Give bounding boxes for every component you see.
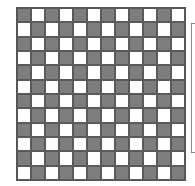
board-square <box>73 8 87 22</box>
board-square <box>171 80 185 94</box>
board-square <box>59 94 73 108</box>
board-square <box>59 123 73 137</box>
board-square <box>157 137 171 151</box>
side-panel-edge <box>191 23 195 153</box>
board-square <box>157 108 171 122</box>
board-square <box>129 65 143 79</box>
board-square <box>87 151 101 165</box>
board-square <box>129 51 143 65</box>
board-square <box>143 94 157 108</box>
board-square <box>87 65 101 79</box>
board-square <box>143 137 157 151</box>
board-square <box>129 8 143 22</box>
board-square <box>17 151 31 165</box>
board-square <box>171 51 185 65</box>
board-square <box>171 123 185 137</box>
board-square <box>73 137 87 151</box>
board-square <box>45 80 59 94</box>
board-square <box>87 80 101 94</box>
board-square <box>101 22 115 36</box>
board-square <box>31 108 45 122</box>
board-square <box>87 94 101 108</box>
board-square <box>87 123 101 137</box>
board-square <box>45 166 59 180</box>
board-square <box>129 37 143 51</box>
board-square <box>73 151 87 165</box>
board-square <box>45 22 59 36</box>
board-square <box>171 22 185 36</box>
board-square <box>73 65 87 79</box>
board-square <box>17 123 31 137</box>
board-square <box>101 123 115 137</box>
board-square <box>157 22 171 36</box>
board-square <box>129 166 143 180</box>
board-square <box>45 108 59 122</box>
board-square <box>157 65 171 79</box>
board-square <box>17 166 31 180</box>
board-square <box>17 65 31 79</box>
board-square <box>115 166 129 180</box>
board-square <box>31 94 45 108</box>
board-square <box>171 65 185 79</box>
board-square <box>87 51 101 65</box>
board-square <box>157 123 171 137</box>
board-square <box>31 37 45 51</box>
board-square <box>115 108 129 122</box>
board-square <box>115 65 129 79</box>
board-square <box>143 8 157 22</box>
board-square <box>115 80 129 94</box>
board-square <box>31 137 45 151</box>
board-square <box>143 151 157 165</box>
board-square <box>87 108 101 122</box>
board-square <box>129 123 143 137</box>
board-square <box>171 166 185 180</box>
board-square <box>17 80 31 94</box>
board-square <box>59 166 73 180</box>
board-square <box>45 51 59 65</box>
board-square <box>129 137 143 151</box>
board-square <box>59 80 73 94</box>
board-square <box>129 151 143 165</box>
board-square <box>115 51 129 65</box>
board-square <box>45 65 59 79</box>
board-square <box>87 37 101 51</box>
board-square <box>17 94 31 108</box>
board-square <box>59 108 73 122</box>
board-square <box>115 22 129 36</box>
board-square <box>59 65 73 79</box>
board-square <box>87 22 101 36</box>
board-square <box>129 108 143 122</box>
board-square <box>45 123 59 137</box>
board-square <box>73 94 87 108</box>
board-square <box>129 22 143 36</box>
board-square <box>17 108 31 122</box>
board-square <box>157 166 171 180</box>
board-square <box>171 37 185 51</box>
board-square <box>143 37 157 51</box>
board-square <box>157 37 171 51</box>
board-square <box>59 37 73 51</box>
board-square <box>17 51 31 65</box>
board-square <box>143 166 157 180</box>
board-square <box>157 151 171 165</box>
board-square <box>101 51 115 65</box>
board-square <box>31 123 45 137</box>
board-square <box>59 151 73 165</box>
board-square <box>17 8 31 22</box>
board-square <box>101 37 115 51</box>
board-square <box>31 22 45 36</box>
board-square <box>59 51 73 65</box>
board-square <box>157 80 171 94</box>
board-square <box>59 22 73 36</box>
board-square <box>73 166 87 180</box>
board-square <box>101 8 115 22</box>
board-square <box>115 8 129 22</box>
board-square <box>31 151 45 165</box>
board-square <box>31 166 45 180</box>
board-square <box>17 22 31 36</box>
board-square <box>143 22 157 36</box>
board-square <box>115 137 129 151</box>
board-square <box>45 137 59 151</box>
board-square <box>171 137 185 151</box>
board-square <box>129 80 143 94</box>
